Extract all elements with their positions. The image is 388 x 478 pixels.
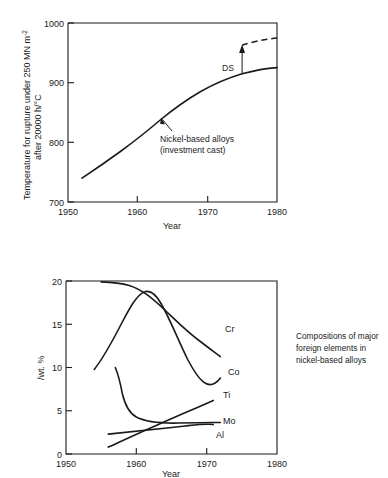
top-chart-x-tick-labels: 1950 1960 1970 1980 bbox=[58, 207, 287, 217]
bottom-chart-x-tick-1960: 1960 bbox=[126, 459, 146, 469]
bottom-chart-x-ticks bbox=[136, 448, 206, 454]
top-chart-y-axis-title-line1: Temperature for rupture under 250 MN m-2 bbox=[21, 30, 33, 200]
bottom-chart-y-tick-20: 20 bbox=[52, 277, 62, 287]
bottom-chart-y-tick-0: 0 bbox=[57, 450, 62, 460]
bottom-chart-svg: /wt. % 20 15 10 5 0 1950 1960 197 bbox=[0, 262, 388, 478]
top-chart-x-tick-1980: 1980 bbox=[267, 207, 287, 217]
top-chart-nickel-label-line2: (investment cast) bbox=[160, 145, 226, 155]
top-chart-nickel-leader bbox=[160, 118, 172, 131]
bottom-chart-y-tick-10: 10 bbox=[52, 363, 62, 373]
bottom-chart-y-ticks bbox=[66, 281, 72, 454]
top-chart-svg: Temperature for rupture under 250 MN m-2… bbox=[0, 0, 388, 240]
side-caption-line-1: Compositions of major bbox=[296, 330, 388, 342]
top-chart-y-tick-800: 800 bbox=[49, 138, 64, 148]
top-chart-y-axis-title-line2: after 20000 h/°C bbox=[33, 94, 43, 160]
bottom-chart-label-cr: Cr bbox=[225, 324, 235, 334]
top-chart-y-ticks bbox=[68, 23, 74, 202]
bottom-chart-x-axis-title: Year bbox=[162, 469, 180, 478]
top-figure: Temperature for rupture under 250 MN m-2… bbox=[0, 0, 388, 240]
bottom-chart-label-ti: Ti bbox=[223, 390, 230, 400]
bottom-chart-y-tick-labels: 20 15 10 5 0 bbox=[52, 277, 62, 460]
bottom-chart-curve-mo bbox=[115, 368, 220, 424]
bottom-chart-x-tick-1950: 1950 bbox=[56, 459, 76, 469]
top-chart-x-tick-1960: 1960 bbox=[127, 207, 147, 217]
bottom-chart-label-al: Al bbox=[216, 430, 224, 440]
top-chart-x-tick-1950: 1950 bbox=[58, 207, 78, 217]
top-chart-ds-connector bbox=[239, 45, 245, 73]
bottom-chart-y-tick-15: 15 bbox=[52, 320, 62, 330]
top-chart-axes bbox=[68, 23, 277, 202]
top-chart-curve-nickel-alloys bbox=[82, 68, 277, 179]
bottom-chart-y-tick-5: 5 bbox=[57, 406, 62, 416]
top-chart-ds-label: DS bbox=[222, 63, 234, 73]
top-chart-y-tick-700: 700 bbox=[49, 198, 64, 208]
bottom-chart-label-co: Co bbox=[228, 367, 240, 377]
top-chart-nickel-label-line1: Nickel-based alloys bbox=[160, 134, 234, 144]
top-chart-y-axis-title: Temperature for rupture under 250 MN m-2… bbox=[21, 30, 44, 200]
top-chart-y-tick-1000: 1000 bbox=[44, 19, 64, 29]
top-chart-y-tick-900: 900 bbox=[49, 78, 64, 88]
bottom-chart-label-mo: Mo bbox=[223, 416, 236, 426]
bottom-chart-y-axis-title: /wt. % bbox=[36, 355, 46, 380]
bottom-figure: /wt. % 20 15 10 5 0 1950 1960 197 bbox=[0, 262, 388, 478]
bottom-chart-curve-ti bbox=[108, 400, 213, 447]
top-chart-x-ticks bbox=[137, 196, 207, 202]
side-caption-line-2: foreign elements in bbox=[296, 342, 388, 354]
top-chart-curve-ds bbox=[242, 38, 277, 45]
bottom-chart-curve-al bbox=[108, 424, 213, 434]
top-chart-x-axis-title: Year bbox=[163, 221, 181, 231]
top-chart-ds-arrowhead bbox=[239, 45, 245, 53]
side-caption-line-3: nickel-based alloys bbox=[296, 354, 388, 366]
top-chart-y-tick-labels: 1000 900 800 700 bbox=[44, 19, 64, 208]
bottom-chart-x-tick-1970: 1970 bbox=[197, 459, 217, 469]
bottom-chart-x-tick-labels: 1950 1960 1970 1980 bbox=[56, 459, 287, 469]
bottom-chart-curve-co bbox=[94, 291, 220, 384]
bottom-chart-curve-cr bbox=[101, 282, 220, 357]
top-chart-x-tick-1970: 1970 bbox=[198, 207, 218, 217]
bottom-chart-x-tick-1980: 1980 bbox=[267, 459, 287, 469]
side-caption: Compositions of major foreign elements i… bbox=[296, 330, 388, 366]
